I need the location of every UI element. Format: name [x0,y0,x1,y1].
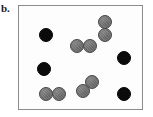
diagram-box [18,5,143,110]
black-particle [117,51,131,65]
gray-particle [98,15,112,29]
gray-particle [70,39,84,53]
black-particle [37,62,51,76]
gray-particle [52,87,66,101]
gray-particle [98,28,112,42]
black-particle [39,28,53,42]
black-particle [117,87,131,101]
figure-panel: b. [0,0,153,117]
gray-particle [76,84,90,98]
panel-label: b. [1,3,10,14]
gray-particle [39,87,53,101]
gray-particle [83,39,97,53]
